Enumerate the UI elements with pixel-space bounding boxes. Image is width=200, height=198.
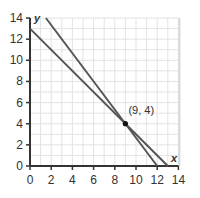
x-tick-label: 8 [111,173,118,187]
x-tick-label: 10 [129,173,143,187]
chart: 0246810121402468101214 y x (9, 4) [0,0,200,198]
y-tick-label: 6 [16,96,23,110]
y-tick-label: 4 [16,117,23,131]
y-tick-label: 8 [16,74,23,88]
x-tick-label: 0 [27,173,34,187]
x-tick-label: 4 [69,173,76,187]
x-tick-label: 2 [48,173,55,187]
x-tick-label: 12 [151,173,165,187]
point-label: (9, 4) [128,104,154,116]
intersection-point [123,121,128,126]
y-tick-label: 10 [10,53,24,67]
series-line [30,29,168,166]
y-tick-label: 2 [16,138,23,152]
x-axis-label: x [170,152,178,164]
x-tick-label: 6 [90,173,97,187]
y-axis-label: y [33,12,41,24]
grid [30,18,179,166]
x-tick-label: 14 [172,173,186,187]
y-tick-label: 14 [10,11,24,25]
y-tick-label: 0 [16,159,23,173]
y-tick-label: 12 [10,32,24,46]
tick-labels: 0246810121402468101214 [10,11,186,187]
